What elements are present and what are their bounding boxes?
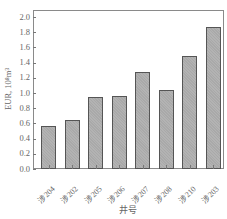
bar-涉207: [135, 72, 150, 169]
y-tick-mark: [33, 17, 36, 18]
y-tick-mark: [33, 108, 36, 109]
y-tick-mark: [33, 93, 36, 94]
bar-涉203: [206, 27, 221, 169]
x-tick-mark: [143, 165, 144, 169]
y-tick-label: 0.2: [0, 149, 30, 158]
bar-涉205: [88, 97, 103, 169]
bar-涉210: [182, 56, 197, 169]
x-tick-mark: [49, 165, 50, 169]
x-tick-label: 涉205: [74, 183, 103, 212]
y-tick-mark: [33, 154, 36, 155]
x-tick-label: 涉204: [27, 183, 56, 212]
bar-涉208: [159, 90, 174, 169]
x-tick-mark: [190, 165, 191, 169]
y-tick-label: 1.8: [0, 28, 30, 37]
x-axis-label: 井号: [113, 203, 143, 216]
y-tick-mark: [33, 78, 36, 79]
x-tick-label: 涉202: [51, 183, 80, 212]
bar-涉206: [112, 96, 127, 169]
y-tick-label: 0.4: [0, 134, 30, 143]
y-tick-mark: [33, 169, 36, 170]
x-tick-mark: [213, 165, 214, 169]
y-tick-mark: [33, 123, 36, 124]
y-tick-mark: [33, 32, 36, 33]
bar-涉204: [41, 126, 56, 169]
y-tick-label: 0.0: [0, 165, 30, 174]
x-tick-mark: [96, 165, 97, 169]
y-axis-label: EUR, 10⁸m³: [3, 49, 13, 129]
x-tick-mark: [119, 165, 120, 169]
x-tick-label: 涉208: [145, 183, 174, 212]
x-tick-mark: [166, 165, 167, 169]
x-tick-mark: [72, 165, 73, 169]
bar-涉202: [65, 120, 80, 169]
x-tick-label: 涉203: [192, 183, 221, 212]
y-tick-mark: [33, 63, 36, 64]
y-tick-mark: [33, 139, 36, 140]
x-tick-label: 涉210: [168, 183, 197, 212]
y-tick-label: 2.0: [0, 13, 30, 22]
y-tick-mark: [33, 47, 36, 48]
